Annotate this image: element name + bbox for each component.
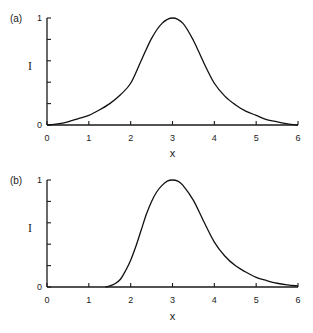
y-axis-title: I xyxy=(28,59,32,73)
panel-b: 012345601xI(b) xyxy=(10,175,301,322)
x-axis-title: x xyxy=(170,147,176,159)
x-tick-label: 3 xyxy=(170,133,175,143)
x-tick-label: 2 xyxy=(128,133,133,143)
x-tick-label: 5 xyxy=(254,133,259,143)
x-tick-label: 1 xyxy=(86,133,91,143)
panel-label: (a) xyxy=(10,13,22,24)
series-line-0 xyxy=(106,180,298,287)
x-tick-label: 6 xyxy=(295,295,300,305)
y-tick-label: 0 xyxy=(37,282,42,292)
x-tick-label: 6 xyxy=(295,133,300,143)
x-axis-title: x xyxy=(170,310,176,322)
y-tick-label: 1 xyxy=(37,13,42,23)
x-tick-label: 3 xyxy=(170,295,175,305)
x-tick-label: 2 xyxy=(128,295,133,305)
x-tick-label: 4 xyxy=(212,133,217,143)
x-tick-label: 1 xyxy=(86,295,91,305)
y-tick-label: 1 xyxy=(37,175,42,185)
y-tick-label: 0 xyxy=(37,120,42,130)
panel-a: 012345601xI(a) xyxy=(10,13,301,159)
x-tick-label: 0 xyxy=(44,295,49,305)
x-tick-label: 4 xyxy=(212,295,217,305)
y-axis-title: I xyxy=(28,221,32,235)
x-tick-label: 0 xyxy=(44,133,49,143)
figure: 012345601xI(a) 012345601xI(b) xyxy=(0,0,313,333)
x-tick-label: 5 xyxy=(254,295,259,305)
series-line-0 xyxy=(47,18,298,125)
panel-label: (b) xyxy=(10,175,22,186)
